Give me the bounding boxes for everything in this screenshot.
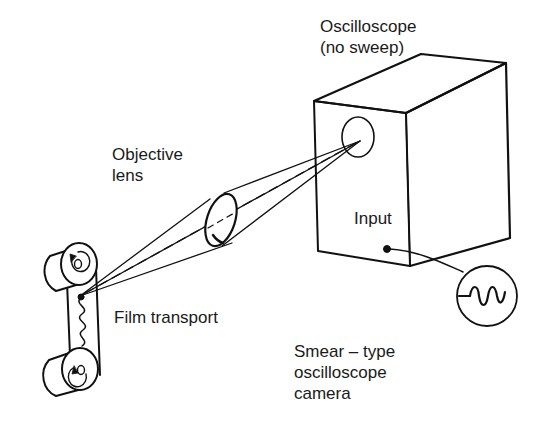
caption-line1: Smear – type [294,341,395,362]
objective-lens-label-line1: Objective [112,144,183,165]
caption: Smear – type oscilloscope camera [294,341,395,404]
caption-line2: oscilloscope [294,362,395,383]
oscilloscope-label-line2: (no sweep) [320,37,416,58]
input-signal [384,246,518,327]
diagram-graphics [0,0,537,434]
caption-line3: camera [294,383,395,404]
oscilloscope-box [314,54,510,266]
objective-lens-label-line2: lens [112,165,183,186]
oscilloscope-label-line1: Oscilloscope [320,16,416,37]
input-label: Input [354,208,392,229]
oscilloscope-label: Oscilloscope (no sweep) [320,16,416,58]
film-transport-label: Film transport [114,307,218,328]
objective-lens-label: Objective lens [112,144,183,186]
objective-lens [199,190,242,250]
film-transport [43,243,100,396]
smear-camera-diagram: Oscilloscope (no sweep) Objective lens I… [0,0,537,434]
